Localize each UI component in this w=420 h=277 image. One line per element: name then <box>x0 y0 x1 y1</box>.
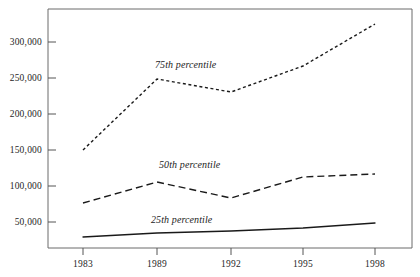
series-25th-percentile <box>83 223 375 237</box>
x-axis-ticks <box>83 248 375 255</box>
y-tick-label-250000: 250,000 <box>0 73 42 83</box>
y-tick-label-150000: 150,000 <box>0 145 42 155</box>
series-label-75th-percentile: 75th percentile <box>155 59 216 70</box>
x-tick-label-1998: 1998 <box>365 259 385 269</box>
y-tick-label-300000: 300,000 <box>0 37 42 47</box>
y-tick-label-200000: 200,000 <box>0 109 42 119</box>
plot-frame <box>48 9 412 248</box>
series-50th-percentile <box>83 174 375 203</box>
chart-plot-area <box>0 0 420 277</box>
x-tick-label-1995: 1995 <box>293 259 313 269</box>
x-tick-label-1983: 1983 <box>73 259 93 269</box>
series-75th-percentile <box>83 24 375 150</box>
y-tick-label-50000: 50,000 <box>0 217 42 227</box>
x-tick-label-1992: 1992 <box>221 259 241 269</box>
series-label-50th-percentile: 50th percentile <box>159 159 220 170</box>
y-axis-ticks <box>48 42 56 222</box>
series-label-25th-percentile: 25th percentile <box>151 214 212 225</box>
y-tick-label-100000: 100,000 <box>0 181 42 191</box>
x-tick-label-1989: 1989 <box>147 259 167 269</box>
percentile-line-chart: 300,000 250,000 200,000 150,000 100,000 … <box>0 0 420 277</box>
